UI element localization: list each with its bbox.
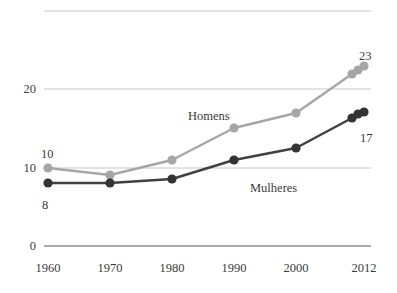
gridlines [44, 11, 371, 246]
x-axis-tick-2012: 2012 [342, 262, 386, 275]
data-label-mulheres-start: 8 [42, 199, 48, 212]
x-axis-tick-1990: 1990 [212, 262, 256, 275]
x-axis-tick-1960: 1960 [26, 262, 70, 275]
y-axis-tick-0: 0 [8, 240, 36, 253]
data-label-homens-start: 10 [41, 148, 54, 161]
x-axis-tick-2000: 2000 [274, 262, 318, 275]
series-label-mulheres: Mulheres [250, 182, 297, 195]
y-axis-tick-20: 20 [8, 83, 36, 96]
data-label-homens-end: 23 [359, 50, 372, 63]
data-label-mulheres-end: 17 [360, 132, 373, 145]
chart-canvas [0, 0, 397, 293]
x-axis-tick-1980: 1980 [150, 262, 194, 275]
x-axis-tick-1970: 1970 [88, 262, 132, 275]
plot-area: 20 10 0 1960 1970 1980 1990 2000 2012 10… [0, 0, 397, 293]
series-label-homens: Homens [188, 110, 230, 123]
line-chart: 20 10 0 1960 1970 1980 1990 2000 2012 10… [0, 0, 397, 293]
y-axis-tick-10: 10 [8, 162, 36, 175]
